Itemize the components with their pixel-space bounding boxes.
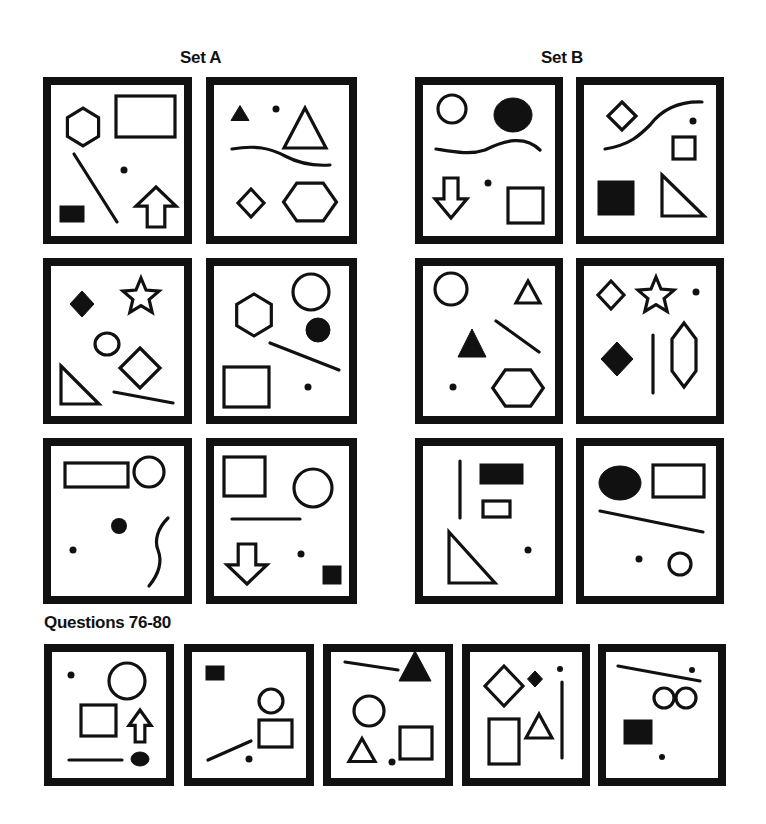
set-b-5-panel xyxy=(419,442,559,600)
panel-frame xyxy=(210,262,353,420)
set-b-6-panel xyxy=(580,442,720,600)
filled-rectangle-shape xyxy=(480,464,523,484)
dot-shape xyxy=(121,167,128,174)
set-b-4-panel xyxy=(580,262,720,420)
panel-frame xyxy=(580,262,720,420)
set-a-6-panel xyxy=(210,442,353,600)
filled-rectangle-shape xyxy=(624,720,652,744)
set-a-4-panel xyxy=(210,262,353,420)
set-a-2-panel xyxy=(210,81,353,240)
filled-ellipse-shape xyxy=(131,752,149,766)
set-b-1-panel xyxy=(419,81,559,240)
question-78-panel xyxy=(327,648,449,782)
dot-shape xyxy=(636,556,643,563)
set-a-1-panel xyxy=(47,81,188,240)
filled-circle-shape xyxy=(306,318,330,342)
dot-shape xyxy=(70,547,77,554)
dot-shape xyxy=(389,759,396,766)
dot-shape xyxy=(689,667,695,673)
set-a-5-panel xyxy=(47,442,188,600)
filled-rectangle-shape xyxy=(323,566,341,584)
dot-shape xyxy=(246,756,253,763)
filled-rectangle-shape xyxy=(60,206,84,222)
dot-shape xyxy=(485,180,492,187)
question-77-panel xyxy=(188,648,310,782)
panel-frame xyxy=(48,648,170,782)
dot-shape xyxy=(273,106,280,113)
panel-frame xyxy=(466,648,586,782)
dot-shape xyxy=(557,666,563,672)
question-79-panel xyxy=(466,648,586,782)
dot-shape xyxy=(298,551,305,558)
dot-shape xyxy=(525,547,532,554)
filled-ellipse-shape xyxy=(599,466,641,500)
filled-rectangle-shape xyxy=(598,181,634,215)
set-b-2-panel xyxy=(580,81,720,240)
dot-shape xyxy=(450,384,457,391)
puzzle-canvas xyxy=(0,0,766,824)
dot-shape xyxy=(111,518,127,534)
filled-ellipse-shape xyxy=(494,98,532,132)
dot-shape xyxy=(659,754,665,760)
panel-frame xyxy=(210,81,353,240)
panel-frame xyxy=(602,648,722,782)
dot-shape xyxy=(68,672,75,679)
question-80-panel xyxy=(602,648,722,782)
question-76-panel xyxy=(48,648,170,782)
set-b-3-panel xyxy=(419,262,559,420)
set-a-3-panel xyxy=(47,262,188,420)
dot-shape xyxy=(305,384,312,391)
dot-shape xyxy=(693,289,700,296)
filled-rectangle-shape xyxy=(206,666,224,680)
dot-shape xyxy=(690,118,697,125)
